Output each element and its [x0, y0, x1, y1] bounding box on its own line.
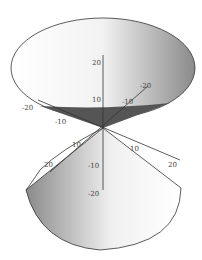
lower-cone	[26, 128, 181, 250]
x-tick-10: 10	[72, 141, 81, 149]
z-tick-20: 20	[92, 59, 101, 67]
x-tick-neg20: -20	[140, 82, 151, 90]
y-tick-10: 10	[130, 145, 139, 153]
x-tick-neg10: -10	[122, 98, 133, 106]
z-tick-10: 10	[92, 96, 101, 104]
x-tick-20: 20	[44, 161, 53, 169]
y-tick-neg20: -20	[22, 104, 33, 112]
z-tick-neg20: -20	[88, 190, 99, 198]
z-tick-neg10: -10	[88, 162, 99, 170]
y-tick-20: 20	[168, 161, 177, 169]
y-tick-neg10: -10	[55, 118, 66, 126]
double-cone-plot: 20 10 -10 -20 -10 -20 10 20 -20 -10 10 2…	[0, 0, 202, 260]
